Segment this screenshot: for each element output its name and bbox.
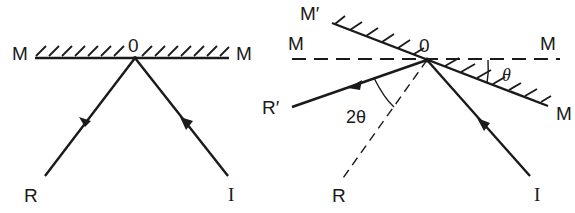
- label-original-reflected: R: [332, 186, 346, 205]
- label-mirror-right: M: [236, 44, 252, 63]
- label-original-mirror-left: M: [288, 34, 304, 53]
- label-rotation-angle: θ: [502, 66, 511, 84]
- diagram-graphics: [0, 0, 575, 213]
- label-incident-left: I: [228, 185, 234, 204]
- label-rotated-mirror-bottom: M: [556, 104, 572, 123]
- label-mirror-left: M: [12, 44, 28, 63]
- label-point-o-right: 0: [419, 36, 430, 55]
- mirror-reflection-diagram: M M 0 R I M′ M M M 0 R′ R I 2θ θ: [0, 0, 575, 213]
- arrow-new-reflected: [348, 80, 362, 90]
- label-incident-right: I: [534, 185, 540, 204]
- label-rotated-mirror-top: M′: [300, 4, 319, 23]
- label-point-o-left: 0: [128, 36, 139, 55]
- incident-ray-left: [135, 58, 228, 176]
- label-deflection-angle: 2θ: [346, 108, 366, 126]
- rotated-mirror-line: [332, 23, 548, 106]
- label-new-reflected: R′: [262, 98, 279, 117]
- left-panel: [35, 46, 229, 176]
- deflection-angle-arc: [374, 78, 394, 107]
- label-original-mirror-right: M: [540, 34, 556, 53]
- label-reflected-left: R: [24, 186, 38, 205]
- reflected-ray-left: [45, 58, 135, 176]
